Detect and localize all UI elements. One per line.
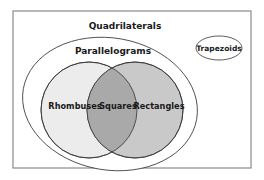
label-rhombuses: Rhombuses xyxy=(48,101,101,111)
label-quadrilaterals: Quadrilaterals xyxy=(89,21,162,31)
label-squares: Squares xyxy=(99,101,137,111)
label-trapezoids: Trapezoids xyxy=(196,44,242,53)
venn-diagram: Quadrilaterals Parallelograms Rhombuses … xyxy=(0,0,264,180)
label-parallelograms: Parallelograms xyxy=(75,46,151,56)
label-rectangles: Rectangles xyxy=(133,101,184,111)
